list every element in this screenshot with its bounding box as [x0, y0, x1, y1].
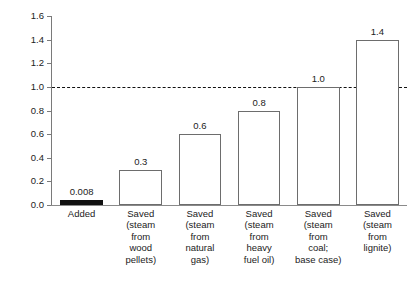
- y-tick-label: 1.4: [14, 35, 44, 45]
- y-tick-label-text: 1.6: [18, 11, 44, 21]
- category-label-line: Added: [52, 208, 111, 219]
- y-tick-label: 0.6: [14, 129, 44, 139]
- category-label-line: coal;: [289, 242, 348, 253]
- reference-line-1.0: [52, 87, 407, 88]
- category-label-line: wood: [111, 242, 170, 253]
- category-label-line: natural: [170, 242, 229, 253]
- bar-4: [297, 87, 340, 205]
- category-label-line: (steam: [289, 219, 348, 230]
- bar-value-label-0: 0.008: [70, 187, 94, 197]
- y-tick-label-text: 0.6: [18, 129, 44, 139]
- category-label-line: from: [170, 231, 229, 242]
- y-tick-label-text: 0.0: [18, 200, 44, 210]
- category-label-line: Saved: [230, 208, 289, 219]
- bar-0: [60, 200, 103, 205]
- category-label-line: base case): [289, 254, 348, 265]
- category-label-line: (steam: [230, 219, 289, 230]
- category-label-line: (steam: [170, 219, 229, 230]
- bar-value-label-2: 0.6: [193, 121, 206, 131]
- bar-3: [238, 111, 281, 206]
- y-tick-label: 0.0: [14, 200, 44, 210]
- x-axis-line: [51, 205, 407, 206]
- category-label-line: (steam: [111, 219, 170, 230]
- x-axis-category-labels: AddedSaved(steamfromwoodpellets)Saved(st…: [52, 208, 407, 281]
- category-label-3: Saved(steamfromheavyfuel oil): [230, 208, 289, 265]
- category-label-line: from: [348, 231, 407, 242]
- bar-value-label-1: 0.3: [134, 157, 147, 167]
- plot-area: 0.0080.30.60.81.01.4: [52, 16, 407, 205]
- category-label-line: from: [230, 231, 289, 242]
- category-label-0: Added: [52, 208, 111, 219]
- bar-value-label-3: 0.8: [252, 98, 265, 108]
- category-label-line: Saved: [111, 208, 170, 219]
- category-label-line: gas): [170, 254, 229, 265]
- category-label-line: pellets): [111, 254, 170, 265]
- bar-1: [119, 170, 162, 205]
- category-label-line: from: [111, 231, 170, 242]
- y-tick-label-text: 1.4: [18, 35, 44, 45]
- y-tick-label: 0.4: [14, 153, 44, 163]
- category-label-2: Saved(steamfromnaturalgas): [170, 208, 229, 265]
- category-label-line: Saved: [170, 208, 229, 219]
- y-tick-label: 0.2: [14, 176, 44, 186]
- category-label-line: heavy: [230, 242, 289, 253]
- bar-chart: 0.00.20.40.60.81.01.21.41.6 0.0080.30.60…: [0, 0, 414, 281]
- y-tick-label: 1.0: [14, 82, 44, 92]
- y-tick-label: 0.8: [14, 106, 44, 116]
- bar-value-label-4: 1.0: [312, 74, 325, 84]
- y-tick-label-text: 0.8: [18, 106, 44, 116]
- category-label-line: Saved: [289, 208, 348, 219]
- category-label-4: Saved(steamfromcoal;base case): [289, 208, 348, 265]
- y-tick-label-text: 1.2: [18, 58, 44, 68]
- category-label-line: from: [289, 231, 348, 242]
- y-tick-label: 1.6: [14, 11, 44, 21]
- category-label-line: (steam: [348, 219, 407, 230]
- y-tick-label: 1.2: [14, 58, 44, 68]
- category-label-1: Saved(steamfromwoodpellets): [111, 208, 170, 265]
- bar-5: [356, 40, 399, 205]
- y-tick-label-text: 0.2: [18, 176, 44, 186]
- category-label-line: Saved: [348, 208, 407, 219]
- category-label-line: fuel oil): [230, 254, 289, 265]
- category-label-line: lignite): [348, 242, 407, 253]
- bar-value-label-5: 1.4: [371, 27, 384, 37]
- bar-2: [179, 134, 222, 205]
- y-tick-label-text: 1.0: [18, 82, 44, 92]
- y-tick-label-text: 0.4: [18, 153, 44, 163]
- category-label-5: Saved(steamfromlignite): [348, 208, 407, 254]
